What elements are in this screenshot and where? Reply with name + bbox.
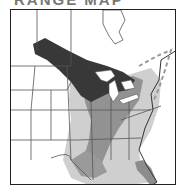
map-title: RANGE MAP <box>0 0 184 5</box>
map-svg <box>11 10 176 185</box>
hudson-bay <box>103 10 125 44</box>
map-title-text: RANGE MAP <box>0 0 184 5</box>
range-map <box>10 9 176 185</box>
